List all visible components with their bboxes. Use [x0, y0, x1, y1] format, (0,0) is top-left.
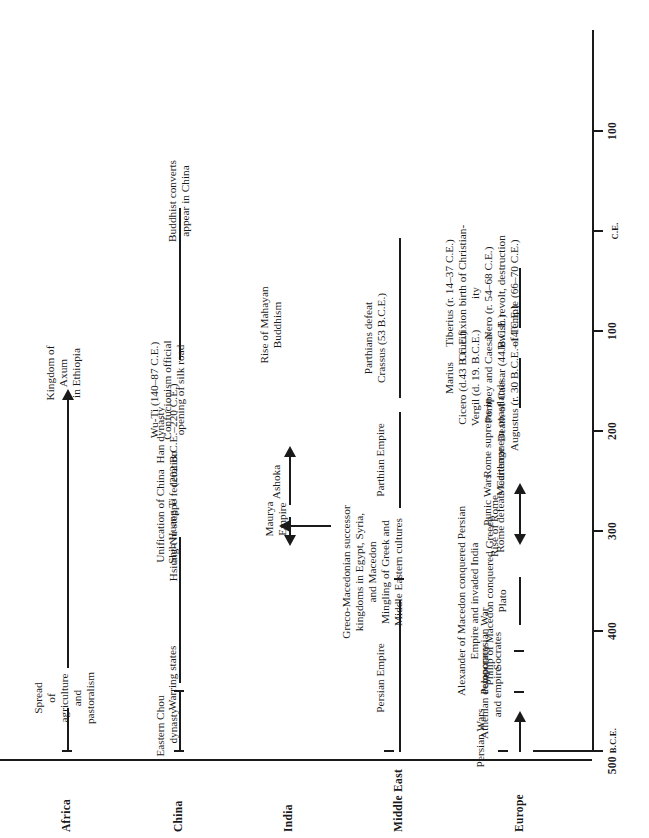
axis-tick-500bce [592, 750, 603, 752]
row-header-europe: Europe [513, 794, 525, 832]
europe-e2-marker [514, 691, 524, 693]
europe-e8-bar [519, 494, 521, 518]
middle-east-event-parthian-empire: Parthian Empire [374, 423, 387, 497]
india-connector [289, 525, 331, 527]
axis-label-500bce: 500 B.C.E. [606, 728, 618, 774]
india-e2-arrow-right-icon [284, 446, 296, 457]
row-header-middle-east: Middle East [392, 769, 404, 832]
middle-east-e4-bar [399, 238, 401, 398]
axis-tick-100ce [592, 130, 603, 132]
axis-label-100bce: 100 [606, 322, 618, 340]
axis-tick-200bce [592, 430, 603, 432]
europe-e1-arrow-right-icon [514, 711, 526, 722]
middle-east-event-greco-macedonian: Greco-Macedonian successor kingdoms in E… [340, 505, 405, 638]
europe-e1-marker [498, 750, 508, 752]
axis-left-cap [533, 750, 593, 752]
axis-label-ce: C.E. [608, 222, 620, 239]
axis-tick-400bce [592, 630, 603, 632]
axis-label-300bce: 300 [606, 522, 618, 540]
india-e1-arrow-left-icon [284, 535, 296, 546]
middle-east-e1-marker [384, 750, 394, 752]
timeline-figure: 500 B.C.E. 400 300 200 100 C.E. 100 Euro… [0, 0, 649, 838]
axis-label-100ce: 100 [606, 122, 618, 140]
india-e2-bar [289, 457, 291, 505]
row-header-africa: Africa [60, 799, 72, 832]
axis-tick-100bce [592, 330, 603, 332]
row-divider [0, 759, 592, 761]
europe-e7-arrow-left-icon [514, 534, 526, 545]
europe-event-early-empire: Tiberius (r. 14–37 C.E.) Crucifixion bir… [443, 225, 522, 361]
axis-tick-300bce [592, 530, 603, 532]
europe-e4-bar [519, 577, 521, 625]
africa-event-spread-of-agriculture: Spread of agriculture and pastoralism [32, 672, 97, 724]
middle-east-event-persian-empire: Persian Empire [374, 643, 387, 712]
europe-e7-bar [519, 518, 521, 534]
india-event-mahayana-buddhism: Rise of Mahayan Buddhism [258, 286, 284, 363]
europe-e8-arrow-right-icon [514, 483, 526, 494]
india-event-ashoka: Ashoka [270, 465, 283, 500]
europe-e1-bar [519, 722, 521, 752]
china-event-wu-ti: Wu-Ti (140–87 C.E.) Confucionism officia… [148, 340, 187, 439]
middle-east-e3-bar [399, 412, 401, 508]
india-event-maurya-empire: Maurya Empire [263, 501, 289, 536]
europe-e3-marker [514, 650, 524, 652]
axis-label-400bce: 400 [606, 622, 618, 640]
africa-e2-bar [67, 400, 69, 668]
row-header-china: China [172, 800, 184, 832]
middle-east-event-parthians-defeat-crassus: Parthians defeat Crassus (53 B.C.E.) [362, 293, 388, 383]
axis-tick-ce [592, 230, 603, 232]
africa-event-kingdom-of-axum: Kingdom of Axum in Ethiopia [44, 346, 83, 401]
axis-label-200bce: 200 [606, 422, 618, 440]
row-header-india: India [282, 804, 294, 832]
europe-event-plato: Plato [496, 589, 509, 612]
china-event-warring-states: Warring states [166, 646, 179, 711]
time-axis-line [592, 30, 594, 752]
europe-event-alexander-of-macedon: Alexander of Macedon conquered Persian E… [455, 506, 481, 696]
china-event-buddhist-converts: Buddhist converts appear in China [166, 160, 192, 242]
